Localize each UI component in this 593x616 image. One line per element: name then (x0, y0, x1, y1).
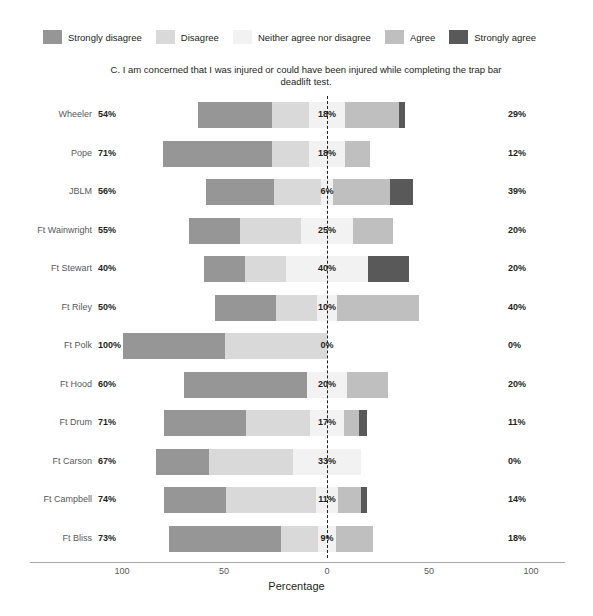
segment-strongly-disagree[interactable] (156, 449, 209, 475)
legend-label: Disagree (181, 32, 219, 43)
chart-row: Ft Riley50%40%10% (0, 289, 593, 328)
chart-title: C. I am concerned that I was injured or … (96, 64, 516, 88)
segment-agree[interactable] (347, 372, 388, 398)
stacked-bar (0, 333, 593, 359)
neither-label: 10% (307, 302, 347, 312)
neither-label: 6% (307, 186, 347, 196)
segment-disagree[interactable] (272, 102, 309, 128)
segment-strongly-disagree[interactable] (163, 141, 271, 167)
chart-row: Ft Bliss73%18%9% (0, 520, 593, 559)
stacked-bar (0, 256, 593, 282)
segment-strongly-disagree[interactable] (169, 526, 281, 552)
stacked-bar (0, 410, 593, 436)
chart-row: Pope71%12%18% (0, 135, 593, 174)
legend-swatch-icon (233, 30, 252, 44)
neither-label: 18% (307, 148, 347, 158)
segment-strongly-agree[interactable] (368, 256, 409, 282)
neither-label: 25% (307, 225, 347, 235)
legend-item[interactable]: Strongly agree (449, 30, 536, 44)
stacked-bar (0, 295, 593, 321)
segment-disagree[interactable] (226, 487, 316, 513)
legend-swatch-icon (43, 30, 62, 44)
chart-row: Ft Carson67%0%33% (0, 443, 593, 482)
segment-strongly-disagree[interactable] (164, 487, 225, 513)
plot-area: Wheeler54%29%18%Pope71%12%18%JBLM56%39%6… (0, 96, 593, 558)
chart-row: Ft Polk100%0%0% (0, 327, 593, 366)
neither-label: 20% (307, 379, 347, 389)
x-axis-label: Percentage (0, 580, 593, 592)
x-tick-label: 100 (511, 566, 551, 576)
stacked-bar (0, 526, 593, 552)
segment-strongly-disagree[interactable] (123, 333, 225, 359)
stacked-bar (0, 179, 593, 205)
stacked-bar (0, 487, 593, 513)
chart-row: Ft Wainwright55%20%25% (0, 212, 593, 251)
legend-label: Strongly agree (474, 32, 536, 43)
x-tick-label: 50 (204, 566, 244, 576)
neither-label: 40% (307, 263, 347, 273)
chart-legend: Strongly disagreeDisagreeNeither agree n… (0, 30, 593, 44)
segment-strongly-agree[interactable] (359, 410, 367, 436)
stacked-bar (0, 218, 593, 244)
segment-strongly-agree[interactable] (361, 487, 367, 513)
segment-disagree[interactable] (246, 410, 309, 436)
stacked-bar (0, 141, 593, 167)
segment-disagree[interactable] (240, 218, 301, 244)
legend-item[interactable]: Strongly disagree (43, 30, 142, 44)
neither-label: 0% (307, 340, 347, 350)
legend-swatch-icon (385, 30, 404, 44)
x-tick-label: 100 (102, 566, 142, 576)
neither-label: 11% (307, 494, 347, 504)
chart-row: Wheeler54%29%18% (0, 96, 593, 135)
x-tick-label: 50 (409, 566, 449, 576)
neither-label: 33% (307, 456, 347, 466)
segment-agree[interactable] (345, 141, 370, 167)
neither-label: 17% (307, 417, 347, 427)
segment-strongly-disagree[interactable] (206, 179, 273, 205)
chart-row: Ft Hood60%20%20% (0, 366, 593, 405)
segment-strongly-disagree[interactable] (184, 372, 307, 398)
segment-strongly-disagree[interactable] (198, 102, 272, 128)
neither-label: 9% (307, 533, 347, 543)
segment-disagree[interactable] (209, 449, 293, 475)
legend-label: Agree (410, 32, 435, 43)
segment-strongly-disagree[interactable] (164, 410, 246, 436)
segment-agree[interactable] (337, 295, 419, 321)
x-tick-label: 0 (307, 566, 347, 576)
chart-row: Ft Drum71%11%17% (0, 404, 593, 443)
segment-strongly-agree[interactable] (390, 179, 412, 205)
legend-label: Strongly disagree (68, 32, 142, 43)
segment-disagree[interactable] (272, 141, 309, 167)
segment-strongly-disagree[interactable] (215, 295, 276, 321)
legend-swatch-icon (156, 30, 175, 44)
legend-label: Neither agree nor disagree (258, 32, 371, 43)
stacked-bar (0, 449, 593, 475)
segment-disagree[interactable] (245, 256, 286, 282)
segment-strongly-disagree[interactable] (189, 218, 240, 244)
legend-swatch-icon (449, 30, 468, 44)
legend-item[interactable]: Disagree (156, 30, 219, 44)
zero-reference-line (327, 96, 329, 558)
chart-row: JBLM56%39%6% (0, 173, 593, 212)
segment-strongly-agree[interactable] (399, 102, 405, 128)
legend-item[interactable]: Agree (385, 30, 435, 44)
segment-strongly-disagree[interactable] (204, 256, 245, 282)
chart-row: Ft Stewart40%20%40% (0, 250, 593, 289)
stacked-bar (0, 372, 593, 398)
legend-item[interactable]: Neither agree nor disagree (233, 30, 371, 44)
x-axis-line (30, 562, 565, 563)
neither-label: 18% (307, 109, 347, 119)
chart-row: Ft Campbell74%14%11% (0, 481, 593, 520)
segment-agree[interactable] (345, 102, 398, 128)
segment-agree[interactable] (353, 218, 394, 244)
stacked-bar (0, 102, 593, 128)
